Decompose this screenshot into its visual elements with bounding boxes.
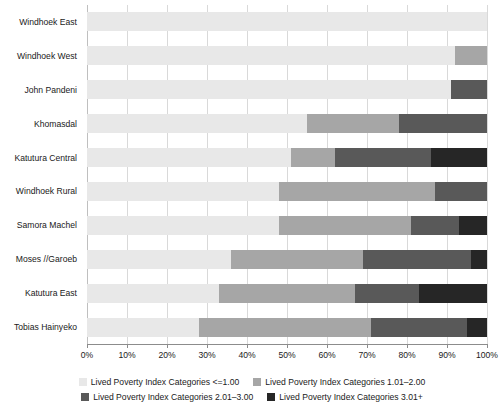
bar-segment[interactable]	[455, 46, 487, 65]
x-tick	[407, 344, 408, 348]
category-axis-labels: Windhoek EastWindhoek WestJohn PandeniKh…	[0, 5, 82, 344]
x-tick-label: 50%	[265, 350, 309, 361]
legend-label: Lived Poverty Index Categories 3.01+	[279, 392, 423, 402]
stacked-bar[interactable]	[87, 80, 487, 99]
bar-segment[interactable]	[87, 318, 199, 337]
stacked-bar[interactable]	[87, 250, 487, 269]
plot-area	[87, 5, 487, 344]
category-label: John Pandeni	[0, 85, 77, 95]
bar-segment[interactable]	[471, 250, 487, 269]
bar-row	[87, 310, 487, 344]
bar-segment[interactable]	[399, 114, 487, 133]
stacked-bar[interactable]	[87, 216, 487, 235]
bar-row	[87, 175, 487, 209]
category-label: Katutura East	[0, 288, 77, 298]
bar-row	[87, 208, 487, 242]
bar-segment[interactable]	[371, 318, 467, 337]
legend-item[interactable]: Lived Poverty Index Categories 3.01+	[267, 392, 423, 402]
category-label: Khomasdal	[0, 119, 77, 129]
bar-segment[interactable]	[87, 250, 231, 269]
bar-segment[interactable]	[355, 284, 419, 303]
stacked-bar-chart: Windhoek EastWindhoek WestJohn PandeniKh…	[0, 0, 504, 412]
bar-row	[87, 141, 487, 175]
x-tick-label: 90%	[425, 350, 469, 361]
legend-swatch-icon	[79, 378, 87, 386]
bar-segment[interactable]	[87, 182, 279, 201]
stacked-bar[interactable]	[87, 46, 487, 65]
legend-label: Lived Poverty Index Categories 2.01–3.00	[93, 392, 253, 402]
x-tick	[287, 344, 288, 348]
bar-segment[interactable]	[451, 80, 487, 99]
x-tick	[367, 344, 368, 348]
bar-segment[interactable]	[87, 284, 219, 303]
bar-row	[87, 276, 487, 310]
legend-item[interactable]: Lived Poverty Index Categories 2.01–3.00	[81, 392, 253, 402]
category-label: Windhoek East	[0, 17, 77, 27]
x-tick	[167, 344, 168, 348]
x-tick	[207, 344, 208, 348]
x-tick	[447, 344, 448, 348]
x-tick	[127, 344, 128, 348]
category-label: Windhoek West	[0, 51, 77, 61]
bar-rows	[87, 5, 487, 344]
stacked-bar[interactable]	[87, 12, 487, 31]
bar-segment[interactable]	[87, 114, 307, 133]
x-tick	[247, 344, 248, 348]
bar-segment[interactable]	[467, 318, 487, 337]
bar-segment[interactable]	[219, 284, 355, 303]
x-tick-label: 60%	[305, 350, 349, 361]
bar-segment[interactable]	[335, 148, 431, 167]
stacked-bar[interactable]	[87, 318, 487, 337]
bar-segment[interactable]	[279, 182, 435, 201]
x-tick-label: 80%	[385, 350, 429, 361]
stacked-bar[interactable]	[87, 148, 487, 167]
bar-segment[interactable]	[291, 148, 335, 167]
x-tick-label: 70%	[345, 350, 389, 361]
chart-legend: Lived Poverty Index Categories <=1.00Liv…	[0, 374, 504, 404]
category-label: Katutura Central	[0, 153, 77, 163]
x-tick	[87, 344, 88, 348]
bar-segment[interactable]	[279, 216, 411, 235]
legend-swatch-icon	[267, 393, 275, 401]
stacked-bar[interactable]	[87, 284, 487, 303]
x-tick	[487, 344, 488, 348]
bar-segment[interactable]	[87, 80, 451, 99]
bar-segment[interactable]	[87, 216, 279, 235]
bar-segment[interactable]	[307, 114, 399, 133]
bar-row	[87, 107, 487, 141]
legend-label: Lived Poverty Index Categories 1.01–2.00	[265, 377, 425, 387]
bar-row	[87, 39, 487, 73]
x-tick-label: 40%	[225, 350, 269, 361]
legend-item[interactable]: Lived Poverty Index Categories <=1.00	[79, 377, 240, 387]
bar-segment[interactable]	[411, 216, 459, 235]
bar-segment[interactable]	[459, 216, 487, 235]
legend-label: Lived Poverty Index Categories <=1.00	[91, 377, 240, 387]
stacked-bar[interactable]	[87, 114, 487, 133]
x-tick-label: 0%	[65, 350, 109, 361]
bar-segment[interactable]	[419, 284, 487, 303]
bar-segment[interactable]	[87, 46, 455, 65]
gridline-100%	[487, 5, 488, 344]
x-tick-label: 10%	[105, 350, 149, 361]
bar-segment[interactable]	[87, 12, 487, 31]
category-label: Moses //Garoeb	[0, 254, 77, 264]
bar-row	[87, 73, 487, 107]
category-label: Samora Machel	[0, 220, 77, 230]
x-tick-label: 30%	[185, 350, 229, 361]
stacked-bar[interactable]	[87, 182, 487, 201]
legend-item[interactable]: Lived Poverty Index Categories 1.01–2.00	[253, 377, 425, 387]
legend-swatch-icon	[253, 378, 261, 386]
x-tick-label: 20%	[145, 350, 189, 361]
x-tick-label: 100%	[465, 350, 504, 361]
legend-row-bottom: Lived Poverty Index Categories 2.01–3.00…	[0, 389, 504, 404]
bar-segment[interactable]	[231, 250, 363, 269]
bar-segment[interactable]	[199, 318, 371, 337]
bar-row	[87, 242, 487, 276]
bar-segment[interactable]	[431, 148, 487, 167]
bar-segment[interactable]	[435, 182, 487, 201]
bar-segment[interactable]	[363, 250, 471, 269]
x-tick	[327, 344, 328, 348]
legend-swatch-icon	[81, 393, 89, 401]
category-label: Windhoek Rural	[0, 186, 77, 196]
bar-segment[interactable]	[87, 148, 291, 167]
